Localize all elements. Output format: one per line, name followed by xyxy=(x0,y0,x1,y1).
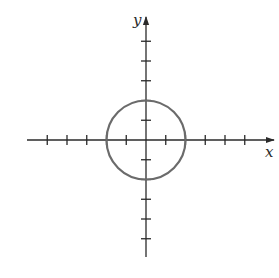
coordinate-plane: y x xyxy=(0,0,279,278)
x-axis-label: x xyxy=(265,143,274,161)
y-axis-label: y xyxy=(132,11,142,29)
